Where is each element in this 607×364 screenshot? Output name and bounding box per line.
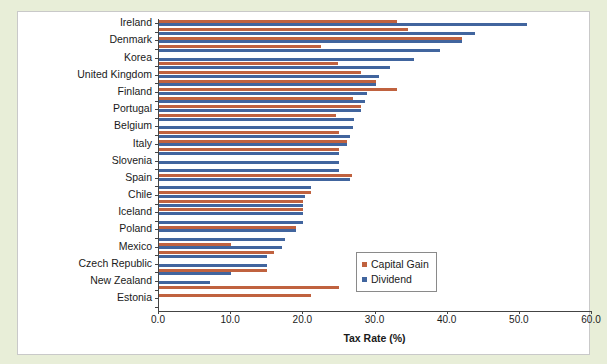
y-axis-tick [155, 212, 158, 213]
y-axis-tick [155, 109, 158, 110]
bar-dividend [159, 195, 305, 198]
bar-row [18, 182, 589, 191]
y-axis-label: New Zealand [90, 275, 152, 286]
bar-row [18, 36, 589, 45]
legend-label-capital-gain: Capital Gain [371, 257, 429, 272]
y-axis-tick [155, 135, 158, 136]
bar-capital-gain [159, 45, 321, 48]
y-axis-label: Slovenia [112, 155, 152, 166]
x-axis-tick-label: 10.0 [220, 314, 239, 325]
bar-dividend [159, 66, 390, 69]
y-axis-tick [155, 144, 158, 145]
y-axis-label: Poland [119, 223, 152, 234]
bar-capital-gain [159, 88, 397, 91]
y-axis-label: Belgium [114, 120, 152, 131]
bar-dividend [159, 178, 350, 181]
bar-capital-gain [159, 191, 311, 194]
bar-dividend [159, 186, 311, 189]
bar-row [18, 217, 589, 226]
y-axis-tick [155, 83, 158, 84]
bar-capital-gain [159, 131, 339, 134]
y-axis-label: Czech Republic [78, 258, 152, 269]
y-axis-tick [155, 75, 158, 76]
bar-dividend [159, 92, 367, 95]
bar-dividend [159, 40, 462, 43]
bar-capital-gain [159, 97, 353, 100]
y-axis-label: Estonia [117, 292, 152, 303]
bar-capital-gain [159, 269, 267, 272]
legend-swatch-capital-gain-icon [362, 262, 367, 267]
y-axis-tick [155, 238, 158, 239]
bar-row [18, 53, 589, 62]
y-axis-tick [155, 255, 158, 256]
x-axis-tick-label: 50.0 [509, 314, 528, 325]
bar-dividend [159, 118, 354, 121]
bar-capital-gain [159, 28, 408, 31]
bar-capital-gain [159, 286, 339, 289]
bar-capital-gain [159, 140, 347, 143]
x-axis-tick-label: 60.0 [581, 314, 600, 325]
bar-dividend [159, 161, 339, 164]
bar-capital-gain [159, 20, 397, 23]
page-top-margin [0, 0, 607, 11]
y-axis-tick [155, 32, 158, 33]
y-axis-label: Chile [128, 189, 152, 200]
bar-row [18, 294, 589, 303]
bar-row [18, 225, 589, 234]
legend-swatch-dividend-icon [362, 277, 367, 282]
bar-dividend [159, 83, 376, 86]
bar-capital-gain [159, 294, 311, 297]
bar-capital-gain [159, 200, 303, 203]
bar-row [18, 174, 589, 183]
bar-row [18, 45, 589, 54]
bar-dividend [159, 126, 353, 129]
bar-row [18, 139, 589, 148]
y-axis-tick [155, 264, 158, 265]
bar-dividend [159, 212, 303, 215]
bar-capital-gain [159, 105, 361, 108]
chart-panel: IrelandDenmarkKoreaUnited KingdomFinland… [17, 11, 590, 355]
y-axis-label: Mexico [119, 241, 152, 252]
bar-capital-gain [159, 71, 361, 74]
bar-capital-gain [159, 251, 274, 254]
y-axis-tick [155, 229, 158, 230]
y-axis-tick [155, 49, 158, 50]
bar-capital-gain [159, 243, 231, 246]
y-axis-tick [155, 40, 158, 41]
y-axis-tick [155, 169, 158, 170]
y-axis-tick [155, 152, 158, 153]
bar-row [18, 208, 589, 217]
y-axis-label: United Kingdom [77, 69, 152, 80]
bar-capital-gain [159, 114, 336, 117]
bar-row [18, 113, 589, 122]
y-axis-tick [155, 221, 158, 222]
bar-row [18, 131, 589, 140]
bar-row [18, 234, 589, 243]
y-axis-label: Iceland [118, 206, 152, 217]
y-axis-tick [155, 307, 158, 308]
bar-capital-gain [159, 226, 296, 229]
bar-row [18, 122, 589, 131]
bar-row [18, 79, 589, 88]
bar-dividend [159, 58, 414, 61]
bar-dividend [159, 204, 303, 207]
bar-dividend [159, 238, 285, 241]
x-axis-tick-label: 30.0 [365, 314, 384, 325]
bar-dividend [159, 152, 339, 155]
bar-capital-gain [159, 148, 339, 151]
y-axis-tick [155, 290, 158, 291]
bar-dividend [159, 75, 379, 78]
bar-row [18, 199, 589, 208]
bar-row [18, 285, 589, 294]
y-axis-tick [155, 58, 158, 59]
y-axis-tick [155, 161, 158, 162]
bar-row [18, 19, 589, 28]
bar-dividend [159, 23, 527, 26]
bar-dividend [159, 169, 339, 172]
legend-item-capital-gain: Capital Gain [362, 257, 429, 272]
legend-item-dividend: Dividend [362, 272, 429, 287]
x-axis-tick-label: 40.0 [437, 314, 456, 325]
bar-capital-gain [159, 62, 338, 65]
bar-row [18, 242, 589, 251]
bar-row [18, 148, 589, 157]
